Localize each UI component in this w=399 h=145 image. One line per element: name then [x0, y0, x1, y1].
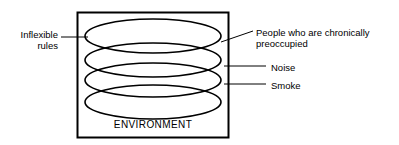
diagram-root: Inflexible rules People who are chronica… — [0, 0, 399, 145]
callout-label-smoke: Smoke — [271, 80, 301, 91]
ellipse-layer-3 — [85, 63, 221, 97]
callout-label-inflexible-rules: Inflexible rules — [10, 29, 58, 51]
callout-label-preoccupied: People who are chronically preoccupied — [256, 27, 396, 49]
environment-box-caption: ENVIRONMENT — [77, 119, 229, 130]
ellipse-layer-4 — [85, 85, 221, 119]
ellipse-layer-2 — [85, 43, 221, 77]
leader-line-preoccupied — [221, 31, 253, 42]
callout-label-noise: Noise — [271, 62, 295, 73]
